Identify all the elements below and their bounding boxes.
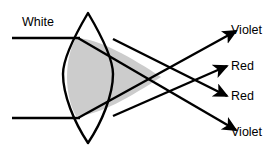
label-red-upper: Red <box>231 59 254 73</box>
optics-diagram: White Violet Red Red Violet <box>0 0 270 148</box>
label-violet-top: Violet <box>231 23 263 37</box>
label-white: White <box>22 15 54 29</box>
lens-dispersion-svg: White Violet Red Red Violet <box>0 0 270 148</box>
label-red-lower: Red <box>231 89 254 103</box>
label-violet-bottom: Violet <box>231 125 263 139</box>
